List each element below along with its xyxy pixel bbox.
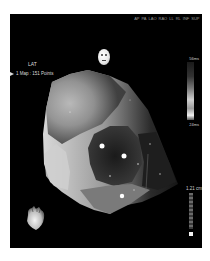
view-button-ap[interactable]: AP bbox=[134, 16, 140, 22]
scale-handle[interactable] bbox=[189, 232, 193, 236]
colorbar-min-label: 24ms bbox=[189, 122, 199, 127]
map-viewport[interactable]: AP PA LAO RAO LL RL INF SUP LAT 1 Map : … bbox=[10, 14, 202, 248]
view-button-lao[interactable]: LAO bbox=[148, 16, 157, 22]
view-button-sup[interactable]: SUP bbox=[191, 16, 200, 22]
eye-right bbox=[105, 54, 107, 56]
map-info-row[interactable]: 1 Map : 151 Points bbox=[10, 71, 54, 76]
scale-bar bbox=[189, 193, 193, 229]
view-button-pa[interactable]: PA bbox=[141, 16, 147, 22]
scale-label: 1.21 cm bbox=[186, 186, 202, 191]
map-type-label: LAT bbox=[28, 61, 37, 67]
map-points-label: 1 Map : 151 Points bbox=[16, 71, 54, 76]
head-orientation-icon[interactable] bbox=[98, 49, 110, 65]
heart-orientation-icon[interactable] bbox=[24, 205, 48, 231]
view-button-inf[interactable]: INF bbox=[182, 16, 189, 22]
view-button-rao[interactable]: RAO bbox=[158, 16, 168, 22]
eye-left bbox=[101, 54, 103, 56]
view-orientation-buttons: AP PA LAO RAO LL RL INF SUP bbox=[134, 16, 200, 22]
colorbar-max-label: 56ms bbox=[189, 56, 199, 61]
mouth bbox=[102, 60, 106, 61]
triangle-right-icon[interactable] bbox=[10, 72, 14, 76]
lat-colorbar[interactable] bbox=[187, 62, 194, 120]
view-button-ll[interactable]: LL bbox=[169, 16, 174, 22]
view-button-rl[interactable]: RL bbox=[175, 16, 181, 22]
